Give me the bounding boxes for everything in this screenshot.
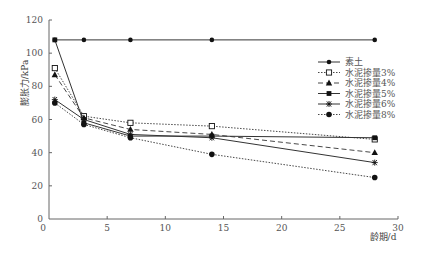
legend-label: 水泥掺量5% xyxy=(345,88,396,99)
legend-label: 水泥掺量4% xyxy=(345,77,396,88)
y-tick-label: 80 xyxy=(32,81,44,91)
legend-label: 水泥掺量8% xyxy=(345,109,396,120)
legend-label: 水泥掺量6% xyxy=(345,98,396,109)
x-tick-label: 20 xyxy=(276,223,288,233)
legend-label: 素土 xyxy=(345,56,363,67)
y-tick-label: 60 xyxy=(32,115,44,125)
y-tick-label: 20 xyxy=(32,181,44,191)
x-tick-label: 15 xyxy=(218,223,230,233)
y-tick-label: 120 xyxy=(26,15,43,25)
x-tick-label: 25 xyxy=(334,223,346,233)
x-tick-label: 10 xyxy=(160,223,172,233)
legend-item: 水泥掺量4% xyxy=(318,77,396,88)
x-axis-title: 龄期/d xyxy=(370,231,397,242)
y-axis-title: 膨胀力/kPa xyxy=(19,59,30,106)
legend-label: 水泥掺量3% xyxy=(345,67,396,78)
x-tick-label: 0 xyxy=(40,223,46,233)
legend-item: 素土 xyxy=(318,56,363,67)
legend-item: 水泥掺量5% xyxy=(318,88,396,99)
legend: 素土水泥掺量3%水泥掺量4%水泥掺量5%水泥掺量6%水泥掺量8% xyxy=(318,56,396,120)
y-tick-label: 40 xyxy=(32,148,44,158)
legend-item: 水泥掺量3% xyxy=(318,67,396,78)
series-group xyxy=(52,38,378,181)
x-tick-label: 5 xyxy=(104,223,110,233)
chart-canvas: 020406080100120051015202530龄期/d膨胀力/kPa 素… xyxy=(0,0,422,255)
legend-item: 水泥掺量8% xyxy=(318,109,396,120)
series-line xyxy=(53,38,378,43)
legend-item: 水泥掺量6% xyxy=(318,98,396,109)
y-tick-label: 100 xyxy=(26,48,43,58)
